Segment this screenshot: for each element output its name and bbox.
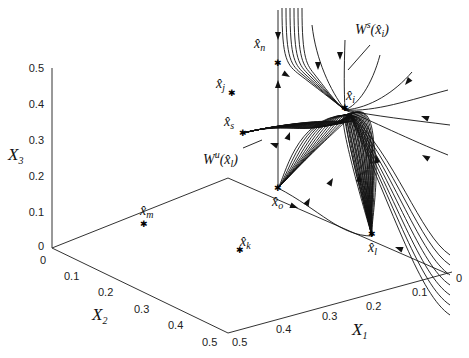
unstable-trajectory (243, 113, 372, 236)
x1-tick: 0.1 (412, 286, 427, 298)
equilibrium-marker-s: ✱ (239, 128, 247, 138)
unstable-trajectory (243, 113, 372, 236)
x2-tick: 0 (40, 254, 46, 266)
stable-trajectory (298, 8, 345, 110)
label-x-hat-i: x̂i (345, 88, 355, 105)
unstable-trajectory (243, 113, 372, 236)
unstable-trajectory (243, 113, 372, 236)
label-x-hat-j: x̂j (215, 76, 225, 93)
flow-arrow-icon (275, 80, 281, 88)
phase-portrait: 0.5 0.4 0.3 0.2 0.1 0 X3 0 0.1 0.2 0.3 0… (0, 0, 469, 358)
equilibrium-marker-l: ✱ (368, 229, 376, 239)
unstable-trajectory (243, 112, 372, 236)
x3-tick: 0.1 (29, 206, 44, 218)
x3-tick: 0.5 (29, 62, 44, 74)
edge-trajectory (278, 188, 372, 236)
stable-trajectory (282, 8, 345, 110)
equilibrium-marker-n: ✱ (274, 58, 282, 68)
flow-arrow-icon (289, 202, 299, 210)
x2-ticks: 0 0.1 0.2 0.3 0.4 0.5 (40, 254, 217, 348)
x2-axis-label: X2 (91, 305, 107, 326)
x1-tick: 0.3 (322, 310, 337, 322)
flow-arrow-icon (337, 52, 343, 60)
equilibrium-marker-i: ✱ (341, 103, 349, 113)
x1-ticks: 0 0.1 0.2 0.3 0.4 0.5 (232, 272, 462, 348)
x2-axis (52, 248, 228, 333)
label-x-hat-m: x̂m (139, 203, 153, 220)
equilibrium-marker-j: ✱ (228, 88, 236, 98)
x3-axis-label: X3 (7, 145, 23, 166)
x1-axis (228, 272, 452, 333)
x3-tick: 0.4 (29, 98, 44, 110)
flow-arrow-icon (420, 113, 430, 121)
label-x-hat-o: x̂o (271, 194, 283, 211)
stable-trajectory (344, 40, 345, 110)
x2-tick: 0.3 (134, 303, 149, 315)
flow-arrow-icon (403, 77, 413, 87)
x1-tick: 0.4 (276, 323, 291, 335)
x2-tick: 0.1 (64, 270, 79, 282)
equilibrium-marker-o: ✱ (274, 183, 282, 193)
x1-axis-label: X1 (351, 320, 367, 341)
unstable-trajectory (243, 113, 372, 236)
flow-arrow-icon (315, 62, 321, 70)
x3-tick: 0.3 (29, 134, 44, 146)
trajectories (243, 8, 450, 315)
equilibrium-marker-m: ✱ (140, 219, 148, 229)
flow-arrow-icon (421, 152, 431, 161)
equilibria: ✱ ✱ ✱ ✱ ✱ ✱ ✱ ✱ (140, 58, 376, 255)
flow-arrow-icon (284, 131, 292, 141)
unstable-manifold-pointer (243, 140, 262, 148)
x2-tick: 0.5 (202, 336, 217, 348)
label-x-hat-s: x̂s (223, 114, 234, 131)
x2-tick: 0.2 (98, 286, 113, 298)
flow-arrow-icon (275, 32, 281, 40)
label-x-hat-n: x̂n (253, 36, 265, 53)
x3-ticks: 0.5 0.4 0.3 0.2 0.1 0 (29, 62, 44, 252)
label-x-hat-k: x̂k (239, 234, 251, 251)
unstable-trajectory (243, 113, 372, 236)
x1-tick: 0.5 (232, 336, 247, 348)
stable-manifold-label: Ws(x̂i) (355, 19, 389, 39)
stable-trajectory (345, 72, 412, 110)
flow-arrow-icon (326, 177, 335, 187)
flow-arrow-icon (282, 70, 292, 79)
x2-tick: 0.4 (168, 319, 183, 331)
x1-tick: 0 (456, 272, 462, 284)
stable-trajectory (302, 8, 345, 110)
unstable-trajectory (243, 113, 372, 236)
x1-tick: 0.2 (366, 300, 381, 312)
unstable-manifold-label: Wu(x̂l) (203, 149, 238, 169)
x3-tick: 0.2 (29, 170, 44, 182)
x3-tick: 0 (38, 240, 44, 252)
unstable-trajectory (243, 113, 372, 236)
flow-arrow-icon (269, 140, 279, 148)
flow-arrow-icon (303, 197, 312, 207)
stable-manifold-pointer (348, 45, 370, 70)
